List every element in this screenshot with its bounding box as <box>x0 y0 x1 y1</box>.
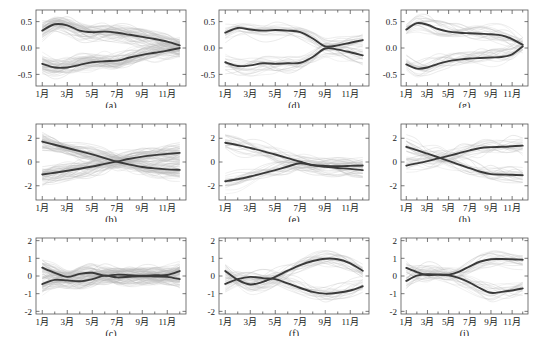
y-tick-label: 0 <box>211 157 216 167</box>
x-tick-label: 11月 <box>341 317 359 327</box>
y-tick-label: -2 <box>390 307 398 317</box>
x-tick-label: 11月 <box>503 317 521 327</box>
axes-frame <box>219 238 369 314</box>
x-tick-label: 1月 <box>36 89 50 99</box>
mean-curve-1 <box>225 259 363 285</box>
subplot-a: -0.50.00.51月3月5月7月9月11月(a) <box>0 0 534 347</box>
axes-frame <box>219 124 369 200</box>
y-tick-label: 0.5 <box>204 17 216 27</box>
ensemble-member-curves <box>225 22 363 76</box>
subplot-label: (c) <box>105 328 116 336</box>
figure-canvas: -0.50.00.51月3月5月7月9月11月(a)SST异常/℃-0.50.0… <box>0 0 534 347</box>
subplot-b: -2021月3月5月7月9月11月(b) <box>0 0 534 347</box>
y-tick-label: 0 <box>393 271 398 281</box>
y-tick-label: 2 <box>393 236 398 246</box>
y-tick-label: 2 <box>28 133 33 143</box>
subplot-canvas-g: -0.50.00.51月3月5月7月9月11月(g) <box>367 6 534 108</box>
x-tick-label: 9月 <box>319 89 333 99</box>
x-tick-label: 5月 <box>442 89 456 99</box>
subplot-i: -2-10121月3月5月7月9月11月(i) <box>0 0 534 347</box>
y-tick-label: -0.5 <box>18 70 33 80</box>
y-tick-label: -1 <box>390 289 398 299</box>
mean-curve-2 <box>406 274 522 293</box>
mean-curve-2 <box>406 46 522 68</box>
ensemble-member-curves <box>225 135 363 194</box>
subplot-canvas-i: -2-10121月3月5月7月9月11月(i) <box>367 234 534 336</box>
mean-curve-2 <box>42 153 180 175</box>
subplot-g: -0.50.00.51月3月5月7月9月11月(g) <box>0 0 534 347</box>
mean-curve-1 <box>406 23 522 45</box>
y-tick-label: -1 <box>208 289 216 299</box>
y-tick-label: 0 <box>28 157 33 167</box>
x-tick-label: 7月 <box>294 317 308 327</box>
subplot-h: -2021月3月5月7月9月11月(h) <box>0 0 534 347</box>
x-tick-label: 9月 <box>319 317 333 327</box>
mean-curve-1 <box>225 143 363 166</box>
x-tick-label: 1月 <box>219 89 233 99</box>
y-tick-label: 1 <box>393 254 398 264</box>
x-tick-label: 11月 <box>158 317 176 327</box>
mean-curve-1 <box>42 24 180 45</box>
mean-curve-2 <box>406 146 522 166</box>
x-tick-label: 7月 <box>463 203 477 213</box>
x-tick-label: 5月 <box>86 89 100 99</box>
subplot-canvas-c: -2-10121月3月5月7月9月11月(c) <box>2 234 194 336</box>
x-tick-label: 9月 <box>484 317 498 327</box>
x-tick-label: 3月 <box>61 317 75 327</box>
x-tick-label: 7月 <box>111 317 125 327</box>
x-tick-label: 1月 <box>36 203 50 213</box>
subplot-label: (h) <box>459 214 471 222</box>
x-tick-label: 1月 <box>219 203 233 213</box>
x-tick-label: 11月 <box>503 89 521 99</box>
subplot-label: (a) <box>105 100 116 108</box>
ensemble-member-curves <box>42 260 180 296</box>
y-axis-label: SST异常/℃ <box>0 8 2 84</box>
x-tick-label: 9月 <box>319 203 333 213</box>
x-tick-label: 3月 <box>244 317 258 327</box>
x-tick-label: 1月 <box>400 317 414 327</box>
y-tick-label: -2 <box>25 307 33 317</box>
subplot-canvas-e: -2021月3月5月7月9月11月(e) <box>185 120 377 222</box>
axes-frame <box>401 124 528 200</box>
subplot-label: (e) <box>288 214 299 222</box>
y-tick-label: 1 <box>211 254 216 264</box>
axes-frame <box>36 124 186 200</box>
subplot-label: (g) <box>459 100 471 108</box>
x-tick-label: 5月 <box>442 317 456 327</box>
y-tick-label: 0.5 <box>21 17 33 27</box>
y-tick-label: -1 <box>25 289 33 299</box>
y-axis-label: SST异常/℃ <box>0 122 2 198</box>
subplot-label: (i) <box>460 328 469 336</box>
mean-curve-2 <box>42 276 180 285</box>
y-tick-label: 1 <box>28 254 33 264</box>
x-tick-label: 1月 <box>219 317 233 327</box>
x-tick-label: 7月 <box>111 203 125 213</box>
x-tick-label: 5月 <box>269 317 283 327</box>
mean-curve-2 <box>225 48 363 66</box>
x-tick-label: 5月 <box>269 203 283 213</box>
subplot-label: (f) <box>289 328 299 336</box>
ensemble-member-curves <box>225 251 363 302</box>
y-tick-label: -0.5 <box>383 70 398 80</box>
x-tick-label: 3月 <box>61 89 75 99</box>
x-tick-label: 7月 <box>294 89 308 99</box>
x-tick-label: 11月 <box>341 89 359 99</box>
subplot-canvas-d: -0.50.00.51月3月5月7月9月11月(d) <box>185 6 377 108</box>
x-tick-label: 3月 <box>61 203 75 213</box>
x-tick-label: 9月 <box>136 203 150 213</box>
subplot-label: (d) <box>288 100 300 108</box>
x-tick-label: 9月 <box>484 89 498 99</box>
x-tick-label: 1月 <box>36 317 50 327</box>
y-axis-label: SST异常/℃ <box>0 236 2 312</box>
y-tick-label: 0 <box>211 271 216 281</box>
x-tick-label: 3月 <box>421 203 435 213</box>
x-tick-label: 9月 <box>136 89 150 99</box>
mean-curve-1 <box>406 147 522 176</box>
subplot-f: -2-10121月3月5月7月9月11月(f) <box>0 0 534 347</box>
y-tick-label: 2 <box>211 236 216 246</box>
y-tick-label: -2 <box>208 307 216 317</box>
x-tick-label: 9月 <box>136 317 150 327</box>
axes-frame <box>401 10 528 86</box>
y-tick-label: 0.5 <box>386 17 398 27</box>
mean-curve-1 <box>406 259 522 275</box>
